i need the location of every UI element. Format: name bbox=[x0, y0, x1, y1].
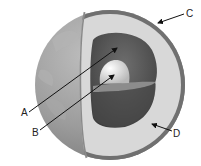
label-d: D bbox=[173, 129, 180, 139]
earth-layers-diagram bbox=[0, 0, 201, 166]
label-b: B bbox=[32, 128, 39, 138]
label-a: A bbox=[21, 108, 28, 118]
label-c: C bbox=[186, 9, 193, 19]
arrow-c bbox=[158, 14, 184, 23]
